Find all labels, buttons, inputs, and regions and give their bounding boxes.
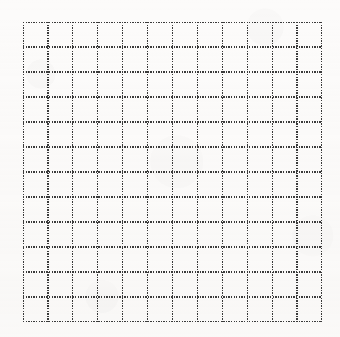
- grid-svg-canvas: [23, 22, 322, 322]
- graph-paper-page: [0, 0, 340, 337]
- dotted-grid-sheet: [23, 22, 322, 322]
